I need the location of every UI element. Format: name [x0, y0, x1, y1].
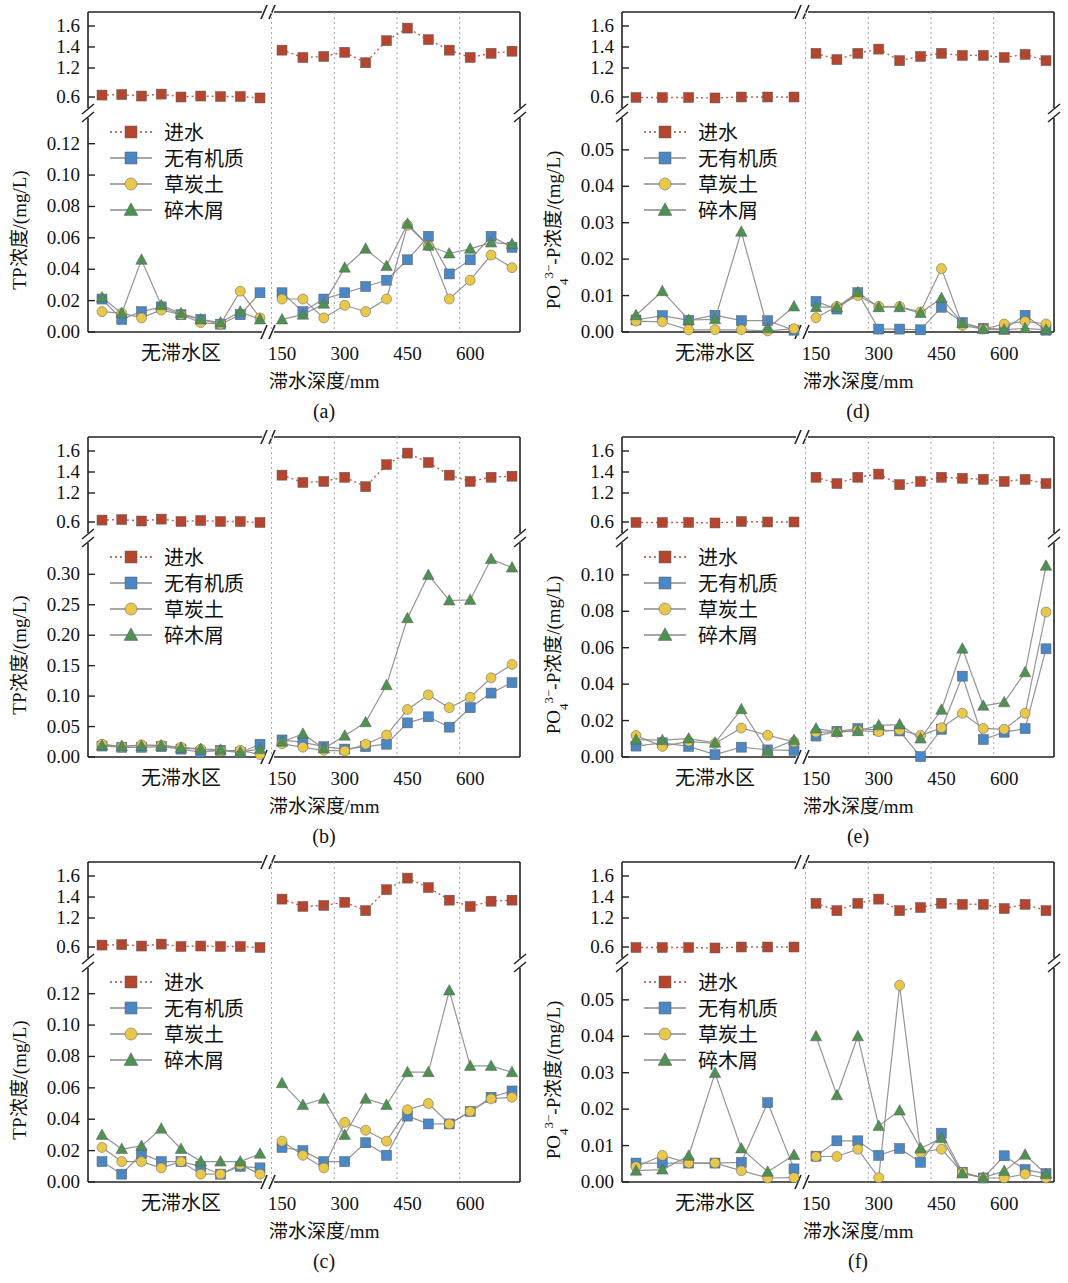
data-point-marker [789, 92, 799, 102]
data-point-marker [485, 553, 497, 564]
xtick-label: 300 [330, 768, 359, 789]
data-point-marker [235, 942, 245, 952]
data-point-marker [319, 313, 329, 323]
data-point-marker [957, 50, 967, 60]
data-point-marker [657, 317, 667, 327]
data-point-marker [657, 942, 667, 952]
data-point-marker [339, 730, 351, 741]
data-point-marker [196, 1169, 206, 1179]
legend-label-influent: 进水 [698, 122, 738, 144]
data-point-marker [402, 612, 414, 623]
series-wood_chips [96, 985, 518, 1167]
data-point-marker [810, 723, 822, 734]
data-point-marker [444, 45, 454, 55]
data-point-marker [360, 716, 372, 727]
data-point-marker [684, 92, 694, 102]
data-point-marker [360, 1093, 372, 1104]
series-peat_soil [631, 980, 1051, 1183]
data-point-marker [444, 895, 454, 905]
data-point-marker [978, 723, 988, 733]
data-point-marker [999, 476, 1009, 486]
data-point-marker [789, 324, 799, 334]
ytick-lower: 0.00 [47, 1171, 80, 1192]
data-point-marker [788, 1149, 800, 1160]
data-point-marker [916, 325, 926, 335]
legend-label-wood_chips: 碎木屑 [698, 625, 758, 647]
xtick-label: 300 [864, 343, 893, 364]
ytick-upper: 0.6 [590, 936, 614, 957]
data-point-marker [136, 254, 148, 265]
data-point-marker [465, 1106, 475, 1116]
data-point-marker [156, 514, 166, 524]
data-point-marker [1041, 644, 1051, 654]
data-point-marker [874, 324, 884, 334]
data-point-marker [117, 1169, 127, 1179]
data-point-marker [832, 1136, 842, 1146]
data-point-marker [852, 1030, 864, 1041]
data-point-marker [1020, 899, 1030, 909]
data-point-marker [631, 942, 641, 952]
data-point-marker [1020, 49, 1030, 59]
data-point-marker [298, 1150, 308, 1160]
data-point-marker [811, 898, 821, 908]
data-point-marker [916, 1157, 926, 1167]
data-point-marker [340, 47, 350, 57]
y-axis-title: PO43−-P浓度/(mg/L) [541, 576, 571, 735]
xtick-label: 450 [393, 768, 422, 789]
xtick-label: 450 [927, 1193, 956, 1214]
data-point-marker [382, 460, 392, 470]
data-point-marker [444, 1119, 454, 1129]
x-category-label: 无滞水区 [675, 342, 755, 364]
data-point-marker [1041, 906, 1051, 916]
data-point-marker [895, 324, 905, 334]
ytick-upper: 1.4 [590, 36, 614, 57]
data-point-marker [999, 53, 1009, 63]
data-point-marker [789, 942, 799, 952]
legend-label-peat_soil: 草炭土 [164, 174, 224, 196]
subplot-panel-a: 1.61.41.20.60.000.020.040.060.080.100.12… [0, 0, 534, 425]
data-point-marker [874, 1173, 884, 1183]
legend-label-influent: 进水 [164, 972, 204, 994]
legend-label-influent: 进水 [698, 547, 738, 569]
ytick-upper: 0.6 [56, 86, 80, 107]
subplot-c: 1.61.41.20.60.000.020.040.060.080.100.12… [0, 850, 534, 1283]
x-category-label: 无滞水区 [675, 1192, 755, 1214]
xtick-label: 450 [393, 343, 422, 364]
data-point-marker [1019, 1149, 1031, 1160]
data-point-marker [196, 516, 206, 526]
xtick-label: 300 [864, 768, 893, 789]
data-point-marker [216, 942, 226, 952]
data-point-marker [465, 275, 475, 285]
legend: 进水无有机质草炭土碎木屑 [644, 547, 778, 647]
y-axis-title: TP浓度/(mg/L) [9, 595, 31, 714]
ytick-upper: 1.4 [56, 886, 80, 907]
data-point-marker [465, 476, 475, 486]
data-point-marker [97, 90, 107, 100]
subplot-cell-a: 1.61.41.20.60.000.020.040.060.080.100.12… [0, 0, 534, 425]
ytick-lower: 0.10 [47, 685, 80, 706]
data-point-marker [810, 1030, 822, 1041]
subplot-panel-e: 1.61.41.20.60.000.020.040.060.080.10PO43… [534, 425, 1068, 850]
ytick-lower: 0.04 [581, 1025, 615, 1046]
data-point-marker [659, 1002, 671, 1014]
data-point-marker [216, 517, 226, 527]
data-point-marker [710, 325, 720, 335]
legend-label-no_organic: 无有机质 [164, 998, 244, 1020]
subplot-label: (d) [846, 400, 869, 423]
legend: 进水无有机质草炭土碎木屑 [644, 122, 778, 222]
data-point-marker [125, 1028, 137, 1040]
data-point-marker [117, 1157, 127, 1167]
data-point-marker [659, 178, 671, 190]
data-point-marker [763, 92, 773, 102]
ytick-lower: 0.12 [47, 133, 80, 154]
data-point-marker [176, 517, 186, 527]
ytick-lower: 0.00 [47, 746, 80, 767]
legend-label-peat_soil: 草炭土 [164, 1024, 224, 1046]
data-point-marker [507, 46, 517, 56]
data-point-marker [423, 883, 433, 893]
subplot-label: (c) [313, 1250, 335, 1273]
data-point-marker [277, 294, 287, 304]
legend-label-influent: 进水 [164, 547, 204, 569]
data-point-marker [235, 92, 245, 102]
data-point-marker [853, 48, 863, 58]
